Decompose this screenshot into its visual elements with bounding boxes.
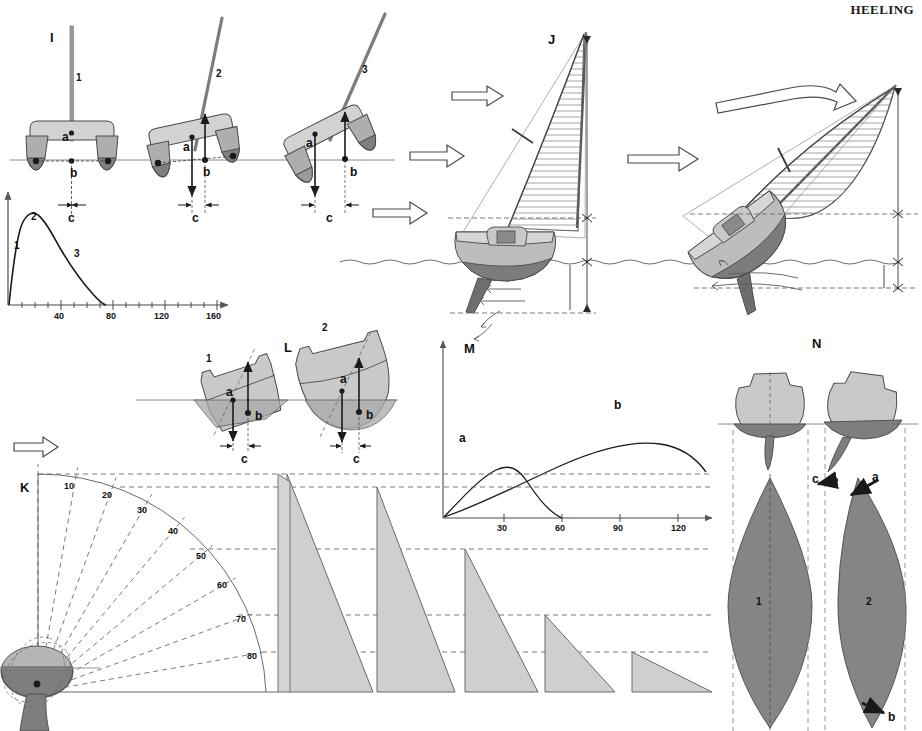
figure-number-N-2: 2 xyxy=(866,596,872,607)
panel-label-L: L xyxy=(284,340,292,355)
angle-label-50: 50 xyxy=(196,551,206,561)
label-b: b xyxy=(255,409,262,423)
label-a: a xyxy=(226,385,233,399)
label-a: a xyxy=(872,470,879,484)
diagram-page: HEELING xyxy=(0,0,922,731)
panel-label-I: I xyxy=(50,30,54,45)
label-b: b xyxy=(888,710,895,724)
label-c: c xyxy=(812,472,819,486)
label-c: c xyxy=(353,452,360,466)
label-a: a xyxy=(306,136,313,150)
panel-K xyxy=(0,437,712,731)
figure-number-N-1: 1 xyxy=(756,596,762,607)
panel-label-M: M xyxy=(464,341,475,356)
curve-annotation-1: 1 xyxy=(14,240,20,251)
figure-number-L-1: 1 xyxy=(206,353,212,364)
curve-annotation-3: 3 xyxy=(74,248,80,259)
panel-M-chart xyxy=(443,341,712,522)
label-c: c xyxy=(192,211,199,225)
yacht-upright xyxy=(448,32,596,341)
label-b: b xyxy=(203,165,210,179)
xtick-label: 120 xyxy=(671,523,686,533)
angle-label-80: 80 xyxy=(247,651,257,661)
panel-J xyxy=(340,32,918,341)
angle-label-70: 70 xyxy=(236,614,246,624)
xtick-label: 30 xyxy=(497,523,507,533)
diagram-canvas xyxy=(0,0,922,731)
angle-label-60: 60 xyxy=(217,580,227,590)
catamaran-figure-3 xyxy=(278,14,385,214)
panel-label-N: N xyxy=(812,336,821,351)
xtick-label: 160 xyxy=(206,311,221,321)
figure-number-L-2: 2 xyxy=(322,322,328,333)
label-a: a xyxy=(183,140,190,154)
wind-arrow xyxy=(14,437,58,457)
panel-N xyxy=(718,368,918,731)
panel-label-J: J xyxy=(548,32,555,47)
panel-I xyxy=(8,14,395,310)
xtick-label: 60 xyxy=(555,523,565,533)
catamaran-figure-1 xyxy=(26,26,118,215)
label-c: c xyxy=(326,211,333,225)
panel-label-K: K xyxy=(20,480,29,495)
label-b: b xyxy=(350,165,357,179)
label-a: a xyxy=(340,372,347,386)
catamaran-figure-2 xyxy=(144,18,244,214)
wind-arrow xyxy=(373,86,503,224)
curve-label-a: a xyxy=(459,431,466,445)
boat-pivot xyxy=(0,629,100,731)
label-b: b xyxy=(70,166,77,180)
xtick-label: 40 xyxy=(54,311,64,321)
righting-arm-triangles xyxy=(287,474,712,692)
figure-number-I-2: 2 xyxy=(216,68,222,79)
label-a: a xyxy=(62,130,69,144)
hull-section-heeled xyxy=(824,368,902,472)
xtick-label: 90 xyxy=(613,523,623,533)
xtick-label: 120 xyxy=(154,311,169,321)
label-c: c xyxy=(241,452,248,466)
angle-label-40: 40 xyxy=(168,526,178,536)
label-c: c xyxy=(68,211,75,225)
label-b: b xyxy=(366,408,373,422)
angle-label-30: 30 xyxy=(137,505,147,515)
yacht-heeled xyxy=(683,85,918,323)
curve-annotation-2: 2 xyxy=(31,211,37,222)
waterplane-heeled xyxy=(838,478,906,728)
chart-I-righting-moment xyxy=(8,192,228,310)
xtick-label: 80 xyxy=(106,311,116,321)
hull-section-2 xyxy=(291,329,401,453)
panel-L xyxy=(136,329,401,453)
angle-label-10: 10 xyxy=(64,481,74,491)
figure-number-I-1: 1 xyxy=(76,72,82,83)
curve-label-b: b xyxy=(614,398,621,412)
waterplane-upright xyxy=(728,474,812,731)
angle-label-20: 20 xyxy=(102,490,112,500)
figure-number-I-3: 3 xyxy=(362,64,368,75)
hull-section-upright xyxy=(734,372,806,470)
